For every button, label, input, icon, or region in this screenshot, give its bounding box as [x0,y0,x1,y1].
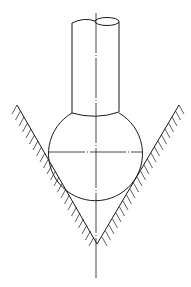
right-hatching [102,105,184,246]
shaft-break-left [72,19,95,23]
ball [48,113,142,201]
shaft-base-curve [72,112,119,116]
v-groove [12,105,184,246]
shaft [72,18,119,117]
centerlines [49,13,143,278]
left-hatching [12,105,94,246]
ball-outline [48,113,142,201]
ball-in-v-groove-diagram [0,0,191,287]
shaft-break-right [95,18,119,26]
